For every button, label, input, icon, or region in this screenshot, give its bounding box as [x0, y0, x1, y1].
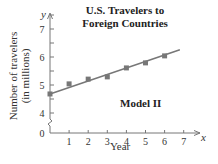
- y-axis-label: Number of travelers (in millions): [7, 32, 31, 121]
- x-tick-label: 7: [181, 136, 186, 147]
- x-tick-label: 1: [67, 136, 72, 147]
- x-tick-label: 6: [162, 136, 167, 147]
- data-point-marker: [162, 53, 167, 58]
- chart-title-line-2: Foreign Countries: [70, 17, 180, 30]
- chart-title: U.S. Travelers to Foreign Countries: [70, 4, 180, 30]
- x-axis-label: Year: [110, 140, 130, 152]
- model-annotation: Model II: [120, 97, 161, 109]
- chart-title-line-1: U.S. Travelers to: [70, 4, 180, 17]
- y-axis-label-line-2: (in millions): [19, 32, 31, 121]
- y-tick-label: 7: [40, 24, 45, 35]
- data-point-marker: [86, 77, 91, 82]
- y-tick-label: 4: [40, 108, 45, 119]
- data-point-marker: [124, 65, 129, 70]
- x-tick-label: 5: [143, 136, 148, 147]
- y-axis-label-line-1: Number of travelers: [7, 32, 19, 121]
- y-tick-label: 6: [40, 52, 45, 63]
- data-point-marker: [67, 81, 72, 86]
- axis-break-icon: [48, 119, 52, 126]
- data-point-marker: [105, 74, 110, 79]
- x-axis-symbol: x: [200, 131, 206, 143]
- y-axis-symbol: y: [40, 8, 46, 20]
- tick-marks: 12345674567: [40, 15, 187, 147]
- data-point-marker: [48, 91, 53, 96]
- model-ii-line: [50, 50, 180, 94]
- origin-label: 0: [40, 128, 45, 139]
- data-point-marker: [143, 60, 148, 65]
- y-tick-label: 5: [40, 80, 45, 91]
- regression-line: [50, 50, 180, 94]
- x-tick-label: 2: [86, 136, 91, 147]
